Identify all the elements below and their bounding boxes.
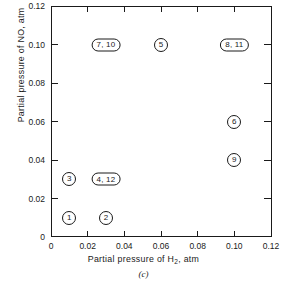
x-axis-tick — [87, 231, 88, 237]
data-point-label: 6 — [227, 115, 241, 129]
data-point-label: 5 — [154, 38, 168, 52]
y-axis-label: Partial pressure of NO, atm — [16, 8, 26, 123]
data-point-label: 4, 12 — [92, 173, 121, 186]
data-point-label: 2 — [99, 211, 113, 225]
x-axis-tick-top — [87, 6, 88, 12]
y-axis-tick — [51, 44, 58, 45]
x-axis-tick — [124, 231, 125, 237]
x-axis-label-tail: , atm — [178, 254, 199, 264]
x-axis-label-text: Partial pressure of H — [88, 254, 174, 264]
y-axis-tick — [51, 121, 58, 122]
data-point-label: 1 — [62, 211, 76, 225]
x-axis-tick-top — [234, 6, 235, 12]
data-point-label: 8, 11 — [220, 38, 248, 51]
x-axis-tick-top — [271, 6, 272, 12]
y-axis-tick — [51, 6, 58, 7]
y-axis-tick-right — [264, 198, 271, 199]
y-axis-tick-right — [264, 160, 271, 161]
y-axis-tick-right — [264, 6, 271, 7]
y-tick-label: 0.04 — [10, 155, 45, 165]
x-axis-tick-top — [124, 6, 125, 12]
x-axis-tick-top — [161, 6, 162, 12]
x-tick-label: 0 — [31, 241, 71, 251]
x-axis-tick — [234, 231, 235, 237]
x-axis-label: Partial pressure of H2, atm — [0, 254, 287, 265]
y-axis-tick — [51, 160, 58, 161]
scatter-plot-figure: 00.020.040.060.080.100.1200.020.040.060.… — [0, 0, 287, 286]
plot-frame-right — [271, 6, 272, 237]
y-axis-tick — [51, 198, 58, 199]
y-axis-label-container: Partial pressure of NO, atm — [10, 0, 24, 145]
data-point-label: 3 — [62, 172, 76, 186]
x-tick-label: 0.12 — [251, 241, 287, 251]
data-point-label: 9 — [227, 153, 241, 167]
x-axis-tick-top — [197, 6, 198, 12]
y-tick-label: 0.02 — [10, 194, 45, 204]
x-tick-label: 0.10 — [214, 241, 254, 251]
y-axis-tick — [51, 83, 58, 84]
x-tick-label: 0.08 — [178, 241, 218, 251]
x-axis-tick — [161, 231, 162, 237]
y-tick-label: 0 — [10, 232, 45, 242]
x-axis-tick — [197, 231, 198, 237]
y-axis-tick-right — [264, 83, 271, 84]
y-axis-tick-right — [264, 44, 271, 45]
x-tick-label: 0.06 — [141, 241, 181, 251]
data-point-label: 7, 10 — [92, 38, 121, 51]
x-tick-label: 0.02 — [68, 241, 108, 251]
y-axis-tick-right — [264, 121, 271, 122]
figure-caption: (c) — [0, 269, 287, 279]
x-tick-label: 0.04 — [104, 241, 144, 251]
x-axis-tick — [271, 231, 272, 237]
